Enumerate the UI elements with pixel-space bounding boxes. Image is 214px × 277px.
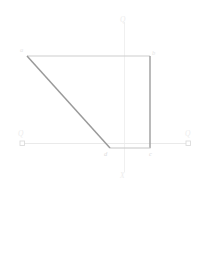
axis-label-top: Q <box>120 16 125 24</box>
diagram-svg <box>0 0 214 277</box>
axis-label-left: Q <box>18 130 23 138</box>
axis-label-bottom: X <box>120 172 125 180</box>
quadrilateral-group <box>27 56 151 148</box>
vertex-label-c: c <box>149 151 152 158</box>
axis-label-right: Q <box>185 130 190 138</box>
right-axis-endpoint-marker <box>186 141 191 146</box>
left-axis-endpoint-marker <box>20 141 25 146</box>
vertex-label-d: d <box>104 151 107 158</box>
vertex-label-b: b <box>152 50 155 57</box>
diagram-canvas: Q X Q Q a b c d <box>0 0 214 277</box>
vertex-label-a: a <box>20 47 23 54</box>
diagonal-edge-segment <box>27 56 110 148</box>
